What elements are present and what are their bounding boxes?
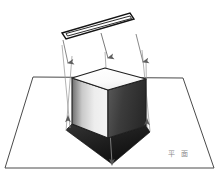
cube-group — [72, 68, 146, 138]
figure-illustration: 平 面 — [0, 0, 218, 175]
light-ray-center — [101, 33, 108, 58]
light-bar-outline — [62, 13, 134, 39]
figure-caption: 平 面 — [168, 148, 190, 158]
projection-line-left-outer — [62, 45, 70, 128]
linear-light-bar — [62, 13, 134, 39]
light-ray-right — [136, 34, 143, 62]
base-arrow-left — [65, 115, 71, 122]
light-rays-group — [63, 33, 143, 63]
